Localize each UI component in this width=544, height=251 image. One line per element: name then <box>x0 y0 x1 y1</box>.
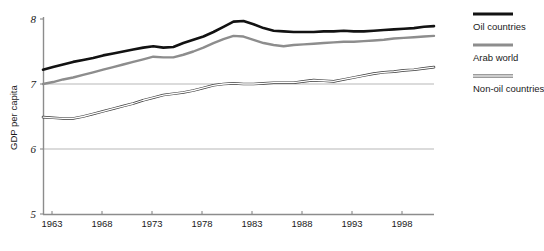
x-tick-label-1963: 1963 <box>41 218 62 229</box>
x-tick-label-1988: 1988 <box>291 218 312 229</box>
x-tick-labels: 1963 1968 1973 1978 1983 1988 1993 1998 <box>41 218 412 229</box>
y-tick-label-7: 7 <box>31 78 37 90</box>
x-tick-label-1978: 1978 <box>191 218 212 229</box>
chart-canvas: 8 7 6 5 1963 1968 1973 1978 1983 1988 19… <box>0 0 544 251</box>
x-tick-label-1993: 1993 <box>341 218 362 229</box>
legend-label-non-oil-countries: Non-oil countries <box>473 83 544 94</box>
y-axis-title: GDP per capita <box>8 85 19 150</box>
legend-label-oil-countries: Oil countries <box>473 21 526 32</box>
x-tick-label-1983: 1983 <box>241 218 262 229</box>
x-tick-marks <box>52 211 402 214</box>
y-tick-labels: 8 7 6 5 <box>31 13 37 220</box>
legend-label-arab-world: Arab world <box>473 52 518 63</box>
axes <box>43 17 434 215</box>
legend: Oil countries Arab world Non-oil countri… <box>473 14 544 94</box>
x-tick-label-1973: 1973 <box>141 218 162 229</box>
gridlines <box>43 84 434 149</box>
x-tick-label-1998: 1998 <box>391 218 412 229</box>
x-tick-label-1968: 1968 <box>91 218 112 229</box>
series-line-non-oil-countries <box>43 67 434 118</box>
series-line-arab-world <box>43 36 434 84</box>
y-tick-label-8: 8 <box>31 13 37 25</box>
series-line-oil-countries <box>43 21 434 70</box>
gdp-per-capita-line-chart: 8 7 6 5 1963 1968 1973 1978 1983 1988 19… <box>0 0 544 251</box>
y-tick-label-6: 6 <box>31 143 37 155</box>
y-tick-label-5: 5 <box>31 208 37 220</box>
data-series <box>43 21 434 119</box>
